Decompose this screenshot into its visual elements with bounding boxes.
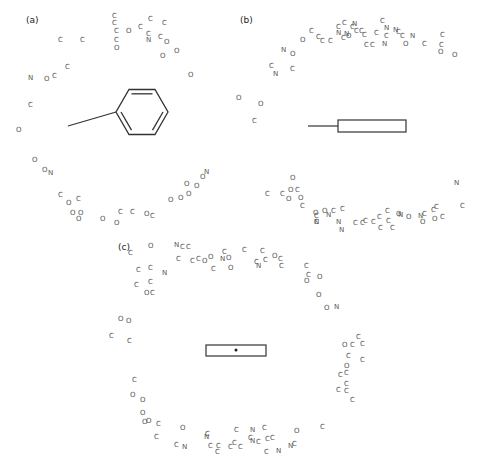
atom-label: C (338, 372, 343, 379)
atom-label: C (190, 258, 195, 265)
atom-label: C (371, 219, 376, 226)
atom-label: O (317, 274, 323, 281)
atom-label: C (265, 191, 270, 198)
atom-label: O (188, 72, 194, 79)
atom-label: C (390, 225, 395, 232)
atom-label: O (16, 127, 22, 134)
atom-label: O (174, 48, 180, 55)
atom-label: O (126, 28, 132, 35)
atom-label: O (288, 187, 294, 194)
atom-label: N (28, 75, 33, 82)
atom-label: O (114, 220, 120, 227)
atom-label: C (150, 290, 155, 297)
atom-label: C (370, 42, 375, 49)
atom-label: C (374, 30, 379, 37)
atom-label: C (252, 118, 257, 125)
benzene-ring-icon (116, 89, 168, 134)
atom-label: O (324, 305, 330, 312)
atom-label: C (320, 38, 325, 45)
atom-label: C (279, 263, 284, 270)
atom-label: C (264, 449, 269, 456)
atom-label: O (144, 211, 150, 218)
atom-label: C (309, 28, 314, 35)
atom-label: N (339, 227, 344, 234)
atom-label: C (344, 370, 349, 377)
atom-label: C (263, 257, 268, 264)
atom-label: C (114, 37, 119, 44)
atom-label: C (242, 247, 247, 254)
atom-label: C (134, 282, 139, 289)
atom-label: O (226, 255, 232, 262)
atom-label: C (234, 427, 239, 434)
atom-label: O (236, 95, 242, 102)
atom-label: C (158, 34, 163, 41)
atom-label: O (144, 290, 150, 297)
atom-label: O (202, 258, 208, 265)
atom-label: O (126, 318, 132, 325)
center-dot-c (235, 349, 238, 352)
atom-label: O (322, 208, 328, 215)
atom-label: N (250, 427, 255, 434)
atom-label: C (422, 41, 427, 48)
atom-label: O (76, 216, 82, 223)
bond-line-a (68, 112, 116, 126)
atom-label: C (128, 250, 133, 257)
atom-label: O (258, 101, 264, 108)
atom-label: O (346, 33, 352, 40)
atom-label: O (298, 195, 304, 202)
atom-label: O (100, 216, 106, 223)
atom-label: O (32, 157, 38, 164)
atom-label: N (162, 270, 167, 277)
panel-label-b: (b) (240, 15, 253, 25)
atom-label: C (460, 203, 465, 210)
atom-label: O (300, 37, 306, 44)
atom-label: N (182, 444, 187, 451)
atom-label: C (156, 421, 161, 428)
atom-label: C (384, 33, 389, 40)
atom-label: C (130, 209, 135, 216)
atom-label: O (452, 52, 458, 59)
atom-label: C (295, 187, 300, 194)
atom-label: N (336, 219, 341, 226)
atom-label: O (313, 210, 319, 217)
atom-label: C (76, 196, 81, 203)
atom-label: N (334, 304, 339, 311)
atom-label: C (362, 32, 367, 39)
atom-label: C (215, 449, 220, 456)
atom-label: O (146, 418, 152, 425)
atom-label: C (162, 20, 167, 27)
atom-label: O (186, 191, 192, 198)
atom-label: N (220, 256, 225, 263)
atom-label: C (118, 209, 123, 216)
atom-label: N (454, 180, 459, 187)
atom-label: N (281, 47, 286, 54)
atom-label: C (114, 28, 119, 35)
atom-label: O (42, 167, 48, 174)
atom-label: O (290, 51, 296, 58)
atom-label: C (269, 63, 274, 70)
atom-label: O (342, 342, 348, 349)
atom-label: O (160, 53, 166, 60)
atom-label: C (262, 425, 267, 432)
atom-label: O (228, 265, 234, 272)
atom-label: O (290, 175, 296, 182)
atom-label: O (432, 216, 438, 223)
atom-label: C (148, 16, 153, 23)
atom-label: O (130, 392, 136, 399)
figure: (a) (b) (c) CCCCCOCCCCNCOCOOOONOCCCOOONC… (0, 0, 481, 473)
atom-label: C (434, 204, 439, 211)
atom-label: C (80, 37, 85, 44)
atom-label: O (118, 316, 124, 323)
atom-label: C (148, 279, 153, 286)
atom-label: O (164, 39, 170, 46)
atom-label: N (250, 438, 255, 445)
atom-label: C (232, 440, 237, 447)
atom-label: C (360, 357, 365, 364)
atom-label: C (109, 333, 114, 340)
atom-label: N (384, 25, 389, 32)
atom-label: N (314, 219, 319, 226)
atom-label: O (114, 45, 120, 52)
atom-label: C (58, 192, 63, 199)
atom-label: C (58, 37, 63, 44)
atom-label: N (146, 37, 151, 44)
